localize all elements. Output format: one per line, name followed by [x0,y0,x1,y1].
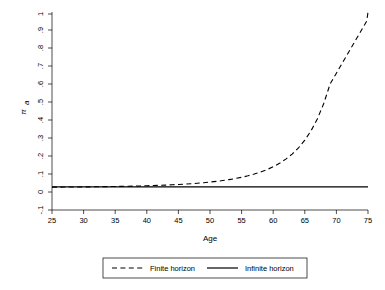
x-tick-label: 30 [79,216,87,225]
y-axis-title-text: π [19,109,28,115]
x-tick-label: 65 [301,216,309,225]
y-tick-label: 0 [36,190,45,194]
x-tick-label: 40 [143,216,151,225]
x-tick-label: 75 [364,216,372,225]
x-tick-label: 35 [111,216,119,225]
x-tick-label: 25 [48,216,56,225]
y-axis-title-subscript: a [22,100,31,105]
y-tick-label: .1 [36,171,45,177]
line-chart: -.1 0 .1 .2 .3 .4 .5 .6 .7 .8 .9 1 [0,0,385,290]
x-tick-label: 55 [237,216,245,225]
legend-label-infinite-horizon: Infinite horizon [245,264,294,273]
x-tick-label: 50 [206,216,214,225]
y-axis-ticks: -.1 0 .1 .2 .3 .4 .5 .6 .7 .8 .9 1 [36,12,52,214]
y-tick-label: .2 [36,153,45,159]
x-axis-ticks: 25 30 35 40 45 50 55 60 65 70 75 [48,210,372,225]
legend-label-finite-horizon: Finite horizon [150,264,195,273]
y-tick-label: .9 [36,27,45,33]
y-tick-label: .4 [36,117,45,123]
y-tick-label: .5 [36,99,45,105]
x-tick-label: 60 [269,216,277,225]
x-tick-label: 70 [332,216,340,225]
y-tick-label: .7 [36,63,45,69]
y-tick-label: .3 [36,135,45,141]
x-tick-label: 45 [174,216,182,225]
chart-figure: -.1 0 .1 .2 .3 .4 .5 .6 .7 .8 .9 1 [0,0,385,290]
chart-legend: Finite horizon Infinite horizon [103,258,307,278]
y-tick-label: .8 [36,45,45,51]
y-tick-label: .6 [36,81,45,87]
y-axis-title: π a [19,100,31,115]
y-tick-label: -.1 [36,206,45,215]
y-tick-label: 1 [36,12,45,16]
x-axis-title: Age [203,234,218,243]
